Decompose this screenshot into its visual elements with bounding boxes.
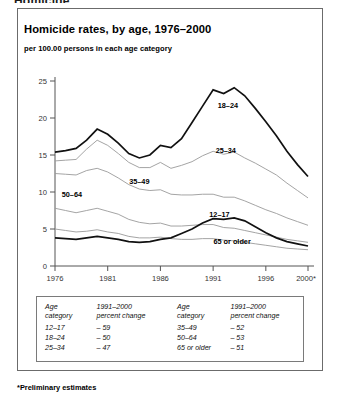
series-line-12-17 — [55, 218, 308, 246]
y-tick-label: 15 — [39, 151, 47, 160]
table-row: 18–24 – 50 50–64 – 53 — [37, 334, 303, 344]
x-tick-label: 1991 — [205, 274, 222, 283]
header-change-right: 1991–2000 — [222, 297, 303, 312]
cell-category: 12–17 — [37, 324, 88, 334]
chart-title: Homicide rates, by age, 1976–2000 — [24, 23, 211, 35]
series-line-35-49 — [55, 168, 308, 225]
line-chart-plot: 0510152025197619811986199119962000*18–24… — [17, 60, 323, 292]
cutoff-page-heading: Homicide — [14, 0, 70, 3]
series-label-12-17: 12–17 — [209, 210, 229, 219]
series-label-18-24: 18–24 — [218, 101, 239, 110]
header-percent-left: percent change — [88, 312, 169, 324]
cell-category: 50–64 — [169, 334, 222, 344]
header-age-left: Age — [37, 297, 88, 312]
header-change-left: 1991–2000 — [88, 297, 169, 312]
cell-change: – 50 — [88, 334, 169, 344]
cell-change: – 51 — [222, 344, 303, 354]
header-percent-right: percent change — [222, 312, 303, 324]
series-label-25-34: 25–34 — [216, 146, 237, 155]
x-tick-label: 1996 — [257, 274, 274, 283]
series-label-35-49: 35–49 — [129, 177, 149, 186]
cell-category: 25–34 — [37, 344, 88, 354]
cell-change: – 52 — [222, 324, 303, 334]
header-category-right: category — [169, 312, 222, 324]
x-tick-label: 1981 — [99, 274, 116, 283]
y-tick-label: 10 — [39, 188, 47, 197]
x-tick-label: 1976 — [47, 274, 64, 283]
cell-category: 18–24 — [37, 334, 88, 344]
table-grid: Age 1991–2000 Age 1991–2000 category per… — [37, 297, 303, 353]
cell-change: – 59 — [88, 324, 169, 334]
header-age-right: Age — [169, 297, 222, 312]
table-header-row-2: category percent change category percent… — [37, 312, 303, 324]
y-tick-label: 25 — [39, 77, 47, 86]
y-tick-label: 5 — [43, 225, 47, 234]
y-tick-label: 0 — [43, 262, 47, 271]
cell-category: 35–49 — [169, 324, 222, 334]
series-label-65-or-older: 65 or older — [213, 237, 250, 246]
cell-change: – 47 — [88, 344, 169, 354]
cell-change: – 53 — [222, 334, 303, 344]
x-tick-label: 2000* — [296, 274, 316, 283]
percent-change-table: Age 1991–2000 Age 1991–2000 category per… — [36, 296, 304, 362]
table-header-row-1: Age 1991–2000 Age 1991–2000 — [37, 297, 303, 312]
series-line-65-or-older — [55, 229, 308, 250]
x-tick-label: 1986 — [152, 274, 169, 283]
y-tick-label: 20 — [39, 114, 47, 123]
header-category-left: category — [37, 312, 88, 324]
series-label-50-64: 50–64 — [62, 190, 83, 199]
table-row: 25–34 – 47 65 or older – 51 — [37, 344, 303, 354]
footnote: *Preliminary estimates — [17, 383, 96, 392]
cell-category: 65 or older — [169, 344, 222, 354]
series-line-18-24 — [55, 88, 308, 177]
table-row: 12–17 – 59 35–49 – 52 — [37, 324, 303, 334]
chart-subtitle: per 100.00 persons in each age category — [24, 44, 172, 53]
